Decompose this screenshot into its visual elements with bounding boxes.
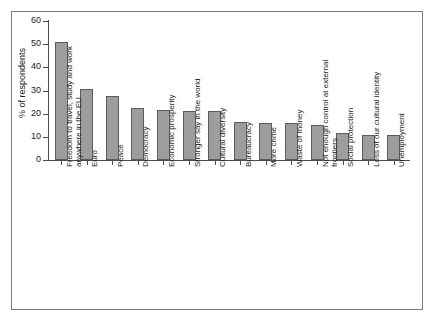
x-axis-line — [48, 160, 410, 161]
y-tick-mark — [43, 114, 48, 115]
y-tick-mark — [43, 44, 48, 45]
y-tick-label-wrap: 0 — [0, 155, 41, 164]
x-tick-mark — [138, 161, 139, 165]
x-axis-label: More crime — [269, 127, 278, 167]
y-tick-mark — [43, 137, 48, 138]
y-tick-label: 30 — [1, 86, 41, 95]
y-tick-mark — [43, 67, 48, 68]
y-axis-line — [48, 20, 49, 161]
y-tick-label-wrap: 50 — [0, 39, 41, 48]
x-axis-label: Bureaucracy — [244, 122, 253, 167]
x-tick-mark — [368, 161, 369, 165]
y-tick-label: 20 — [1, 109, 41, 118]
plot-area: % of respondents 0102030405060 Freedom t… — [0, 0, 437, 323]
figure: % of respondents 0102030405060 Freedom t… — [0, 0, 437, 323]
x-axis-label: Euro — [90, 150, 99, 167]
x-tick-mark — [112, 161, 113, 165]
y-tick-label: 0 — [1, 155, 41, 164]
x-tick-mark — [87, 161, 88, 165]
x-tick-mark — [266, 161, 267, 165]
y-tick-label: 50 — [1, 39, 41, 48]
x-tick-mark — [189, 161, 190, 165]
x-axis-label: Waste of money — [295, 109, 304, 167]
y-tick-mark — [43, 91, 48, 92]
x-axis-label: Not enough control at external frontiers — [321, 35, 339, 167]
x-tick-mark — [240, 161, 241, 165]
x-axis-label: Democracy — [141, 127, 150, 167]
x-axis-label: Loss of our cultural identity — [372, 72, 381, 167]
x-tick-mark — [61, 161, 62, 165]
y-tick-label: 60 — [1, 16, 41, 25]
x-axis-label: Cultural diversity — [218, 108, 227, 167]
x-tick-mark — [317, 161, 318, 165]
y-tick-label-wrap: 40 — [0, 62, 41, 71]
x-tick-mark — [343, 161, 344, 165]
x-tick-mark — [291, 161, 292, 165]
x-tick-mark — [163, 161, 164, 165]
x-tick-mark — [215, 161, 216, 165]
y-tick-label-wrap: 30 — [0, 86, 41, 95]
x-axis-label: Unemployment — [397, 113, 406, 167]
y-tick-label: 40 — [1, 62, 41, 71]
x-axis-label: Economic prosperity — [167, 95, 176, 167]
y-tick-label-wrap: 10 — [0, 132, 41, 141]
y-tick-mark — [43, 160, 48, 161]
y-tick-label: 10 — [1, 132, 41, 141]
x-axis-label: Stronger say in the world — [193, 79, 202, 168]
x-axis-label: Social protection — [346, 108, 355, 167]
y-tick-label-wrap: 60 — [0, 16, 41, 25]
y-tick-label-wrap: 20 — [0, 109, 41, 118]
x-axis-label: Peace — [116, 144, 125, 167]
x-tick-mark — [394, 161, 395, 165]
x-axis-label: Freedom to travel, study and work anywhe… — [65, 35, 83, 167]
y-tick-mark — [43, 21, 48, 22]
